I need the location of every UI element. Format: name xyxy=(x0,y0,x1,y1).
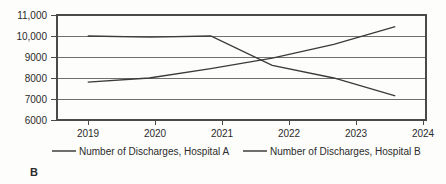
x-tick-label: 2022 xyxy=(278,128,301,139)
series-line-hospital-b xyxy=(88,36,396,96)
panel-label: B xyxy=(30,166,38,178)
figure-panel-b: 11,000 10,000 9000 8000 7000 6000 2019 2… xyxy=(0,0,446,184)
y-tick-label: 6000 xyxy=(25,115,48,126)
gridlines xyxy=(57,15,426,120)
series-line-hospital-a xyxy=(88,27,396,83)
line-chart: 11,000 10,000 9000 8000 7000 6000 2019 2… xyxy=(0,0,446,184)
y-tick-label: 11,000 xyxy=(17,10,47,21)
y-tick-label: 9000 xyxy=(25,52,48,63)
y-axis-ticks xyxy=(51,15,57,120)
y-axis-tick-labels: 11,000 10,000 9000 8000 7000 6000 xyxy=(16,10,47,126)
plot-frame xyxy=(57,15,426,120)
y-tick-label: 8000 xyxy=(25,73,48,84)
data-series xyxy=(88,27,396,96)
x-tick-label: 2021 xyxy=(211,128,234,139)
x-tick-label: 2023 xyxy=(345,128,368,139)
x-axis-ticks xyxy=(88,120,423,125)
chart-legend: Number of Discharges, Hospital A Number … xyxy=(52,146,421,157)
x-tick-label: 2024 xyxy=(412,128,435,139)
legend-label-hospital-b: Number of Discharges, Hospital B xyxy=(270,146,421,157)
legend-label-hospital-a: Number of Discharges, Hospital A xyxy=(79,146,229,157)
x-tick-label: 2019 xyxy=(77,128,100,139)
y-tick-label: 10,000 xyxy=(16,31,47,42)
x-axis-tick-labels: 2019 2020 2021 2022 2023 2024 xyxy=(77,128,435,139)
x-tick-label: 2020 xyxy=(144,128,167,139)
y-tick-label: 7000 xyxy=(25,94,48,105)
